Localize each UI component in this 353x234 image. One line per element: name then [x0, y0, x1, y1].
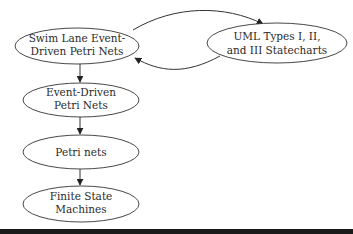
- node-fsm: Finite State Machines: [23, 186, 139, 222]
- node-label-line: Driven Petri Nets: [31, 45, 124, 57]
- node-label-line: Machines: [55, 203, 106, 215]
- node-label-line: Swim Lane Event-: [29, 32, 126, 44]
- bottom-rule: [0, 229, 353, 234]
- edge-uml-to-swimlane: [135, 56, 220, 69]
- node-label-line: UML Types I, II,: [234, 30, 321, 42]
- node-event-driven: Event-Driven Petri Nets: [23, 83, 139, 117]
- node-label-line: Petri nets: [55, 146, 106, 158]
- diagram-canvas: Swim Lane Event- Driven Petri Nets UML T…: [0, 0, 353, 234]
- node-swim-lane: Swim Lane Event- Driven Petri Nets: [15, 28, 139, 64]
- node-label-line: Finite State: [50, 190, 113, 202]
- node-uml: UML Types I, II, and III Statecharts: [207, 23, 347, 63]
- node-petri: Petri nets: [23, 135, 139, 169]
- node-label-line: Petri Nets: [54, 99, 108, 111]
- node-label-line: Event-Driven: [46, 86, 116, 98]
- node-label-line: and III Statecharts: [227, 44, 328, 56]
